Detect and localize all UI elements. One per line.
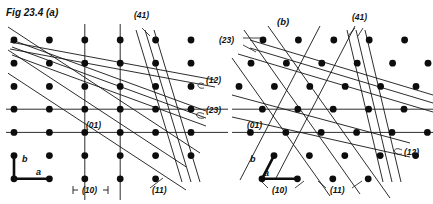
panel-a-vector-b-label: b — [22, 154, 28, 164]
panel-b-index-11: (11) — [330, 185, 345, 195]
panel-a-index-41: (41) — [134, 10, 149, 20]
line-12 — [10, 42, 215, 80]
line-12 — [232, 95, 410, 143]
line-23 — [12, 40, 206, 111]
panel-b-index-01: (01) — [247, 120, 262, 130]
figure-title: Fig 23.4 (a) — [6, 7, 59, 18]
panel-a-index-12: (12) — [206, 75, 221, 85]
crystal-lattice-figure: Fig 23.4 (a) (41) (12) (23) (01) (10) (1… — [0, 0, 433, 204]
panel-a-index-11: (11) — [152, 185, 167, 195]
line-23 — [12, 47, 206, 118]
line-41 — [356, 30, 392, 182]
panel-b-index-12: (12) — [404, 147, 419, 157]
panel-b-index-23: (23) — [219, 35, 234, 45]
line-11 — [268, 26, 390, 198]
line-11 — [8, 27, 200, 153]
line-23 — [250, 48, 433, 103]
panel-a-lines-23 — [12, 40, 206, 126]
line-41 — [347, 30, 383, 182]
panel-b-vector-b-label: b — [250, 154, 256, 164]
panel-a-lines-11 — [8, 27, 200, 190]
panel-b-lattice-dots — [236, 37, 432, 183]
panel-b-index-41: (41) — [352, 12, 367, 22]
panel-b-vector-a-label: a — [264, 168, 269, 178]
panel-b-index-10: (10) — [272, 185, 287, 195]
line-23 — [12, 55, 206, 126]
panel-b-lines-01 — [232, 109, 433, 132]
figure-canvas: Fig 23.4 (a) (41) (12) (23) (01) (10) (1… — [0, 0, 433, 204]
panel-b-lines-41 — [347, 30, 401, 182]
line-41 — [365, 30, 401, 182]
line-41 — [136, 30, 182, 182]
line-12 — [10, 49, 215, 87]
panel-a-vector-a-label: a — [36, 167, 41, 177]
panel-a-index-23: (23) — [206, 105, 221, 115]
panel-a: Fig 23.4 (a) (41) (12) (23) (01) (10) (1… — [6, 7, 228, 200]
panel-a-lines-01 — [6, 109, 228, 132]
panel-b: (b) (41) (23) (12) (01) (10) (11) b a — [219, 12, 433, 198]
line-11 — [8, 73, 186, 190]
panel-b-lines-23 — [238, 40, 433, 112]
panel-b-label: (b) — [277, 16, 289, 27]
panel-a-unit-cell-vectors — [14, 156, 49, 179]
panel-a-index-10: (10) — [82, 185, 97, 195]
panel-b-leaders — [243, 28, 402, 188]
panel-a-index-01: (01) — [86, 120, 101, 130]
